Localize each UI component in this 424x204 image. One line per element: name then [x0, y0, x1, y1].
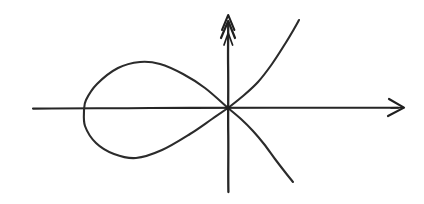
sketch-figure	[0, 0, 424, 204]
figure-background	[0, 0, 424, 204]
nodal-cubic-sketch	[0, 0, 424, 204]
x-axis-line	[33, 108, 398, 109]
curve-node-point	[226, 106, 231, 111]
